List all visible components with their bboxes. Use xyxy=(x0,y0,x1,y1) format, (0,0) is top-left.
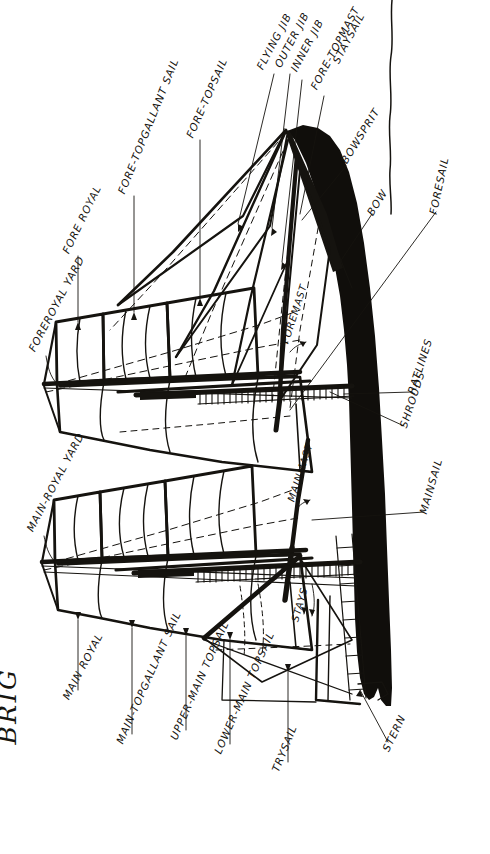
ladder-rung-1 xyxy=(337,547,353,548)
fore-topsail-body xyxy=(167,288,258,378)
foresail-seam-a xyxy=(100,382,104,440)
arrow-main-royal xyxy=(75,612,81,620)
arrow-fore-royal xyxy=(75,322,81,330)
fore-brace-dashed-3 xyxy=(120,416,290,432)
upper-main-topsail-body xyxy=(165,466,256,556)
fore-topsail-seam-b xyxy=(221,293,226,376)
trysail-inner-dashed-a xyxy=(240,586,245,656)
fore-royal-sail xyxy=(56,314,104,384)
main-royal-sail xyxy=(54,492,102,562)
bulwark-inner xyxy=(328,596,330,700)
trysail-foot-dashed xyxy=(216,644,350,650)
diagram-canvas: BRIG FOREROYAL YARD FORE ROYAL FORE-TOPG… xyxy=(0,0,490,854)
arrow-mainmast xyxy=(303,499,310,505)
sheer-edge-line xyxy=(389,0,392,214)
upper-main-topsail-seam-b xyxy=(219,471,224,554)
arrow-fore-topgallant xyxy=(131,312,137,320)
main-royal-seam xyxy=(74,496,78,560)
arrow-fore-topsail xyxy=(197,298,203,306)
main-topgallant-sail-body xyxy=(100,481,168,558)
flying-jib-sail xyxy=(118,130,286,305)
figure-title: BRIG xyxy=(0,667,22,744)
arrow-outer-jib xyxy=(271,228,277,236)
brig-lineart xyxy=(0,0,490,854)
fore-topgallant-seam-a xyxy=(122,310,126,379)
main-topgallant-seam-b xyxy=(144,484,149,556)
inner-jib-sail xyxy=(232,140,288,385)
arrow-stays-b xyxy=(309,609,315,616)
main-stay-long-b xyxy=(44,572,356,586)
fore-topgallant-seam-b xyxy=(146,306,151,378)
ladder-rung-3 xyxy=(340,583,356,584)
ladder-rung-9 xyxy=(349,689,365,690)
main-topgallant-seam-a xyxy=(120,488,125,557)
fore-topgallant-sail-body xyxy=(103,303,170,380)
arrow-lower-main-topsail xyxy=(227,632,233,640)
upper-main-topsail-seam-a xyxy=(190,476,195,555)
fore-topsail-seam-a xyxy=(192,298,197,377)
trysail-luff-line xyxy=(204,640,352,694)
